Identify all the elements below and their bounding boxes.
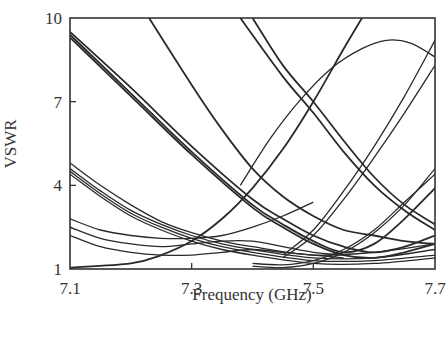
- series-line-curve-hump: [240, 40, 435, 185]
- vswr-chart: 7.17.37.57.714710 Frequency (GHz) VSWR: [0, 0, 448, 337]
- y-tick-label: 7: [54, 93, 63, 112]
- series-line-curve-right-rise1: [283, 40, 435, 255]
- series-line-curve-b3: [70, 171, 435, 261]
- plot-frame: [70, 18, 435, 269]
- y-tick-label: 4: [54, 176, 63, 195]
- series-line-curve-right-low1: [253, 169, 436, 268]
- series-line-curve-a1: [70, 35, 435, 253]
- y-axis-title: VSWR: [1, 119, 20, 169]
- y-tick-label: 10: [45, 9, 62, 28]
- x-axis-title: Frequency (GHz): [192, 285, 311, 304]
- y-tick-label: 1: [54, 260, 63, 279]
- x-tick-label: 7.1: [59, 279, 80, 298]
- ticks-layer: 7.17.37.57.714710: [45, 9, 446, 298]
- x-tick-label: 7.7: [424, 279, 446, 298]
- series-layer: [70, 18, 435, 268]
- series-line-curve-a2: [70, 32, 435, 252]
